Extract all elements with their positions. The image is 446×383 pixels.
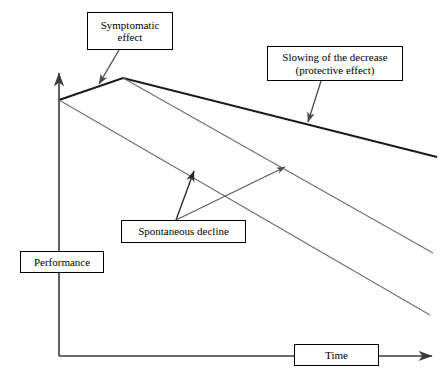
callout-spontaneous-decline: Spontaneous decline bbox=[121, 220, 246, 243]
series-spontaneous-decline-baseline bbox=[59, 100, 430, 315]
series-treated-curve bbox=[59, 78, 437, 157]
callout-slowing-of-the-decrease: Slowing of the decrease (protective effe… bbox=[267, 46, 403, 81]
figure-container: Symptomatic effect Slowing of the decrea… bbox=[0, 0, 446, 383]
leader-arrow-symptomatic bbox=[99, 50, 119, 84]
axis-label-performance: Performance bbox=[20, 251, 104, 273]
leader-arrow-slowing bbox=[308, 81, 321, 122]
callout-symptomatic-effect: Symptomatic effect bbox=[87, 12, 173, 50]
axis-label-time: Time bbox=[294, 344, 379, 366]
